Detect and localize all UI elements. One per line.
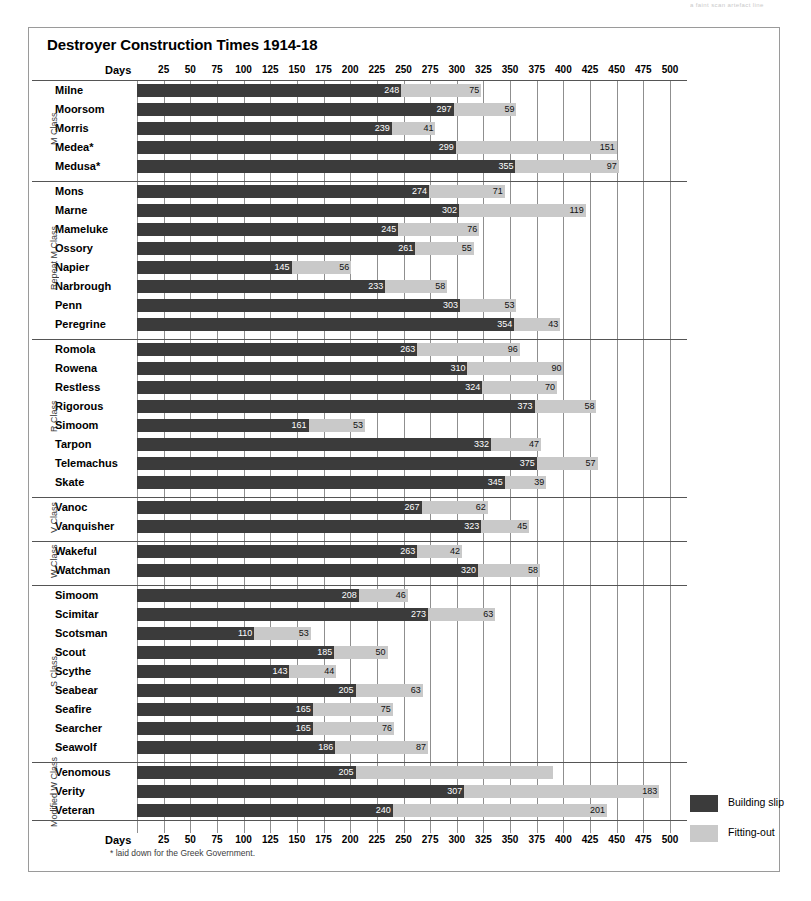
value-building-slip: 354 [492,318,512,331]
bar-building-slip [137,400,535,413]
value-building-slip: 165 [291,703,311,716]
value-fitting-out: 201 [585,804,605,817]
bar-building-slip [137,804,393,817]
axis-tick-175: 175 [315,834,332,845]
axis-tick-300: 300 [448,834,465,845]
value-fitting-out: 55 [452,242,472,255]
chart-canvas: Days 25507510012515017520022525027530032… [0,0,811,901]
ship-name-label: Rigorous [55,400,103,412]
value-fitting-out: 97 [597,160,617,173]
bar-building-slip [137,476,505,489]
axis-tick-150: 150 [289,64,306,75]
value-fitting-out: 53 [494,299,514,312]
bar-building-slip [137,564,478,577]
axis-tick-175: 175 [315,64,332,75]
bar-building-slip [137,785,464,798]
axis-tick-400: 400 [555,834,572,845]
value-fitting-out: 96 [498,343,518,356]
axis-tick-50: 50 [185,834,196,845]
axis-tick-425: 425 [582,834,599,845]
bar-building-slip [137,204,459,217]
axis-tick-200: 200 [342,64,359,75]
value-building-slip: 263 [395,545,415,558]
group-separator [32,585,687,586]
value-building-slip: 261 [393,242,413,255]
legend-label-building-slip: Building slip [728,796,784,808]
value-building-slip: 320 [456,564,476,577]
bar-building-slip [137,318,514,331]
plot-area: Milne24875Moorsom29759Morris23941Medea*2… [47,81,687,833]
axis-tick-425: 425 [582,64,599,75]
table-row: Simoom16153 [47,416,687,435]
ship-name-label: Vanquisher [55,520,114,532]
bar-building-slip [137,766,356,779]
bar-building-slip [137,362,467,375]
bar-building-slip [137,501,422,514]
class-group-label: M Class [47,81,61,176]
group-separator [32,497,687,498]
value-building-slip: 273 [406,608,426,621]
table-row: Skate34539 [47,473,687,492]
value-fitting-out: 151 [595,141,615,154]
table-row: Narbrough23358 [47,277,687,296]
table-row: Simoom20846 [47,586,687,605]
bar-building-slip [137,160,515,173]
value-fitting-out: 58 [518,564,538,577]
group-separator [32,541,687,542]
class-group-label: R Class [47,340,61,492]
value-fitting-out: 50 [366,646,386,659]
value-fitting-out: 119 [564,204,584,217]
bar-building-slip [137,299,460,312]
axis-tick-125: 125 [262,64,279,75]
value-building-slip: 375 [515,457,535,470]
value-building-slip: 165 [291,722,311,735]
value-fitting-out: 63 [473,608,493,621]
axis-days-label-top: Days [105,64,131,76]
value-fitting-out: 76 [457,223,477,236]
value-building-slip: 248 [379,84,399,97]
axis-tick-250: 250 [395,834,412,845]
bar-building-slip [137,646,334,659]
value-fitting-out: 56 [329,261,349,274]
axis-tick-375: 375 [528,834,545,845]
bar-building-slip [137,419,309,432]
bar-fitting-out [464,785,659,798]
value-fitting-out: 183 [637,785,657,798]
axis-tick-450: 450 [608,64,625,75]
axis-tick-475: 475 [635,64,652,75]
value-fitting-out: 57 [576,457,596,470]
ship-name-label: Seawolf [55,741,97,753]
axis-days-label-bottom: Days [105,834,131,846]
value-fitting-out: 59 [494,103,514,116]
ship-name-label: Mameluke [55,223,108,235]
table-row: Seafire16575 [47,700,687,719]
value-fitting-out: 76 [372,722,392,735]
table-row: Medusa*35597 [47,157,687,176]
value-fitting-out: 71 [483,185,503,198]
ship-name-label: Simoom [55,589,98,601]
table-row: Telemachus37557 [47,454,687,473]
table-row: Searcher16576 [47,719,687,738]
axis-tick-250: 250 [395,64,412,75]
table-row: Tarpon33247 [47,435,687,454]
table-row: Scimitar27363 [47,605,687,624]
group-separator [32,181,687,182]
bar-building-slip [137,122,392,135]
axis-tick-25: 25 [158,64,169,75]
table-row: Vanoc26762 [47,498,687,517]
table-row: Scout18550 [47,643,687,662]
footnote: * laid down for the Greek Government. [110,848,255,858]
value-building-slip: 303 [438,299,458,312]
bar-building-slip [137,457,537,470]
class-group-label: V Class [47,498,61,536]
value-building-slip: 297 [432,103,452,116]
table-row: Rowena31090 [47,359,687,378]
bar-building-slip [137,722,313,735]
bar-building-slip [137,223,398,236]
bar-building-slip [137,438,491,451]
value-building-slip: 332 [469,438,489,451]
axis-tick-75: 75 [211,64,222,75]
table-row: Verity307183 [47,782,687,801]
table-row: Seabear20563 [47,681,687,700]
class-group-label: Repeat M Class [47,182,61,334]
